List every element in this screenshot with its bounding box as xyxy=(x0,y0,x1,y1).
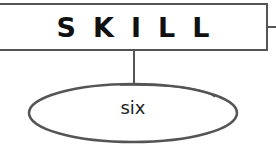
child-ellipse xyxy=(0,0,276,150)
child-label: six xyxy=(28,97,238,118)
